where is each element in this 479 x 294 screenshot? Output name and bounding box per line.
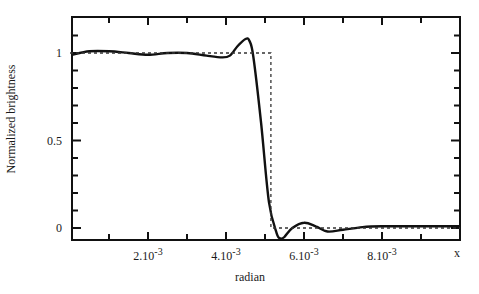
axis-ticks [72, 17, 460, 240]
x-tick-label: 2.10-3 [133, 246, 162, 263]
x-tick-label: 6.10-3 [289, 246, 318, 263]
y-tick-label: 0 [56, 221, 62, 235]
y-tick-label: 1 [56, 46, 62, 60]
y-axis-label: Normalized brightness [4, 64, 18, 173]
chart: 2.10-34.10-36.10-38.10-300.51 radian x N… [0, 0, 479, 294]
plot-border [72, 17, 460, 240]
plot-frame [72, 17, 460, 240]
data-series [70, 38, 460, 238]
x-tick-label: 8.10-3 [367, 246, 396, 263]
x-axis-label: radian [235, 270, 265, 284]
y-tick-label: 0.5 [47, 134, 62, 148]
x-axis-end-label: x [454, 246, 460, 260]
ideal-step-line [70, 53, 460, 228]
x-tick-label: 4.10-3 [211, 246, 240, 263]
brightness-profile-line [72, 38, 460, 238]
